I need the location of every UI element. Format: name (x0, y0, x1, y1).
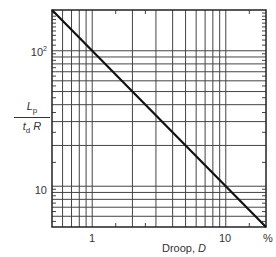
y-tick-label-100: 102 (31, 45, 47, 58)
x-tick-label-10: 10 (219, 232, 231, 244)
y-axis-denominator: td R (14, 118, 50, 135)
x-unit-label: % (263, 232, 273, 244)
y-tick-label-10: 10 (35, 184, 47, 196)
y-axis-title: Lp td R (14, 100, 50, 135)
y-axis-numerator: Lp (14, 100, 50, 118)
x-axis-title: Droop, D (162, 242, 206, 254)
x-tick-label-1: 1 (89, 232, 95, 244)
data-line (52, 10, 266, 227)
